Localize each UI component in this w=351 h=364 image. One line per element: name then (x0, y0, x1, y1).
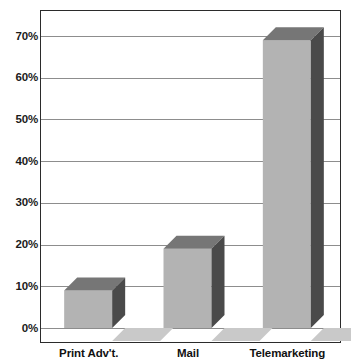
y-tick-label-40: 40% (4, 156, 38, 168)
bar-side-3 (311, 27, 324, 328)
y-tick-label-20: 20% (4, 239, 38, 251)
bar-3[interactable] (41, 11, 339, 341)
x-category-label-2: Mail (177, 347, 199, 359)
y-tick-label-50: 50% (4, 114, 38, 126)
bar-chart: 70%60%50%40%30%20%10%0% Print Adv't.Mail… (0, 0, 351, 364)
y-tick-label-10: 10% (4, 281, 38, 293)
x-category-label-3: Telemarketing (249, 347, 325, 359)
y-tick-label-60: 60% (4, 72, 38, 84)
bar-shadow-3 (311, 328, 351, 341)
x-category-label-1: Print Adv't. (59, 347, 118, 359)
y-tick-label-0: 0% (4, 323, 38, 335)
bar-front-3 (263, 40, 311, 328)
y-tick-label-30: 30% (4, 198, 38, 210)
plot-area (40, 10, 341, 343)
y-tick-label-70: 70% (4, 31, 38, 43)
